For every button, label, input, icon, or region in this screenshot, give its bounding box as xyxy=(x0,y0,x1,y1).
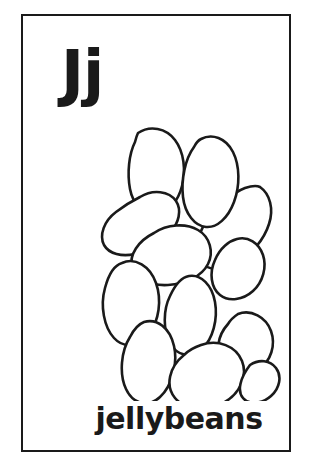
card-border: Jj xyxy=(21,14,291,452)
jellybeans-line-art xyxy=(78,121,288,401)
alphabet-flashcard: Jj xyxy=(0,0,310,473)
caption-word: jellybeans xyxy=(44,402,310,436)
letter-pair-heading: Jj xyxy=(61,42,103,104)
jellybeans-illustration xyxy=(78,121,288,401)
